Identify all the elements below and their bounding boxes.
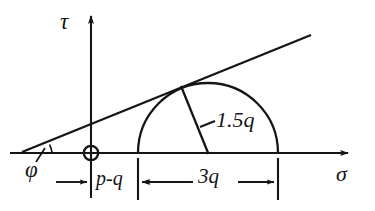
- circle-radius-line: [181, 86, 209, 154]
- radius-label-leader: [200, 121, 215, 127]
- dimension-label-three-q: 3q: [198, 166, 219, 187]
- normal-stress-axis-label: σ: [336, 163, 347, 185]
- circle-radius-label: 1.5q: [216, 109, 255, 131]
- mohr-diagram-canvas: [0, 0, 375, 211]
- shear-stress-axis-label: τ: [60, 10, 68, 33]
- friction-angle-label: φ: [25, 158, 38, 181]
- failure-envelope-line: [22, 35, 311, 152]
- mohr-circle-figure: τ σ φ 1.5q p-q 3q: [0, 0, 375, 211]
- dimension-label-p-minus-q: p-q: [96, 168, 123, 188]
- mohr-semicircle-arc: [138, 83, 278, 153]
- friction-angle-arc: [50, 145, 52, 153]
